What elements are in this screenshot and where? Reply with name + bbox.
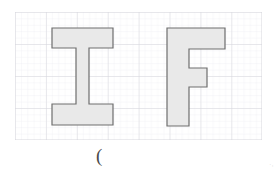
caption-open-paren: ( — [96, 146, 102, 165]
figure-canvas: ( ·, — [0, 0, 277, 171]
shapes-layer — [0, 0, 277, 171]
corner-artifact-mark: ·, — [269, 161, 274, 167]
shape-letter-F — [167, 28, 225, 126]
shape-letter-I — [52, 28, 113, 125]
